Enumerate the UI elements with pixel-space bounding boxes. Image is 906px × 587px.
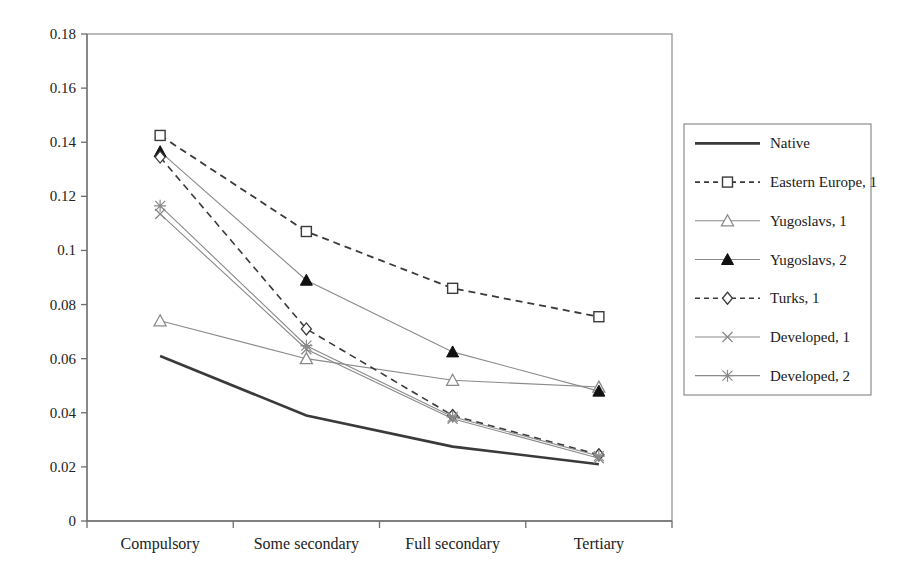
legend-item-developed-1[interactable]: Developed, 1 [695,329,850,345]
series-line [160,152,599,391]
x-category-label: Some secondary [254,535,359,553]
x-category-label: Compulsory [121,535,200,553]
data-point-marker [447,346,459,357]
legend-label: Developed, 2 [770,368,850,384]
series-developed-1 [155,209,604,463]
y-tick-label: 0.16 [50,80,77,96]
series-turks-1 [155,151,604,461]
plot-frame [87,34,672,521]
data-point-marker [448,283,458,293]
chart-container: 00.020.040.060.080.10.120.140.160.18 Com… [0,0,906,587]
legend-label: Developed, 1 [770,329,850,345]
legend-marker-sample [723,292,733,304]
series-line [160,356,599,464]
series-line [160,157,599,455]
data-point-marker [154,315,166,326]
legend-label: Eastern Europe, 1 [770,174,877,190]
x-category-label: Tertiary [574,535,624,553]
legend-label: Turks, 1 [770,290,819,306]
y-tick-label: 0.06 [50,351,77,367]
line-chart: 00.020.040.060.080.10.120.140.160.18 Com… [0,0,906,587]
data-point-marker [593,450,605,462]
y-axis-tick-labels: 00.020.040.060.080.10.120.140.160.18 [50,26,77,529]
data-point-marker [301,227,311,237]
x-axis-ticks [87,521,672,528]
legend-item-turks-1[interactable]: Turks, 1 [695,290,819,306]
legend-label: Yugoslavs, 2 [770,252,847,268]
y-tick-label: 0.04 [50,405,77,421]
data-point-marker [154,200,166,212]
y-axis-ticks [81,34,87,521]
legend-item-yugoslavs-2[interactable]: Yugoslavs, 2 [695,252,847,268]
legend-label: Yugoslavs, 1 [770,213,847,229]
legend-marker-sample [723,177,733,187]
legend-item-native[interactable]: Native [695,135,810,151]
series-line [160,214,599,458]
x-category-label: Full secondary [405,535,500,553]
y-tick-label: 0.1 [57,242,76,258]
chart-legend: NativeEastern Europe, 1Yugoslavs, 1Yugos… [684,124,877,395]
y-tick-label: 0.18 [50,26,76,42]
y-tick-label: 0.14 [50,134,77,150]
series-developed-2 [154,200,605,462]
y-tick-label: 0.12 [50,188,76,204]
y-tick-label: 0 [69,513,77,529]
legend-marker-sample [722,370,734,382]
data-point-marker [155,130,165,140]
series-line [160,206,599,456]
plot-border [87,34,672,521]
legend-item-developed-2[interactable]: Developed, 2 [695,368,850,384]
legend-item-eastern-europe-1[interactable]: Eastern Europe, 1 [695,174,877,190]
data-point-marker [300,340,312,352]
x-axis-category-labels: CompulsorySome secondaryFull secondaryTe… [121,535,625,553]
legend-label: Native [770,135,810,151]
data-point-marker [594,312,604,322]
y-tick-label: 0.08 [50,297,76,313]
series-native [160,356,599,464]
series-line [160,135,599,316]
series-eastern-europe-1 [155,130,604,321]
series-group [154,130,605,464]
data-point-marker [447,411,459,423]
series-line [160,321,599,387]
legend-item-yugoslavs-1[interactable]: Yugoslavs, 1 [695,213,847,229]
data-point-marker [300,353,312,364]
y-tick-label: 0.02 [50,459,76,475]
